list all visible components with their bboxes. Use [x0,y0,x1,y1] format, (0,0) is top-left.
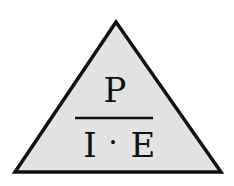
denominator-e: E [131,125,156,165]
multiply-dot: · [108,124,118,159]
numerator-p: P [104,70,127,110]
formula-triangle-diagram: P I · E [0,0,234,186]
denominator-i: I [83,125,96,165]
